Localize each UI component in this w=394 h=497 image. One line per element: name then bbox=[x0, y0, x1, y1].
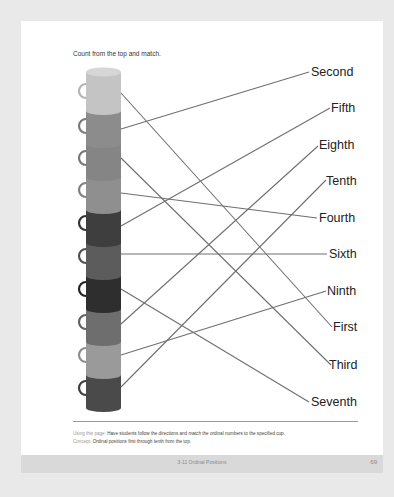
cup-stack bbox=[86, 68, 121, 413]
label-seventh[interactable]: Seventh bbox=[311, 395, 357, 409]
label-first[interactable]: First bbox=[333, 320, 357, 334]
cup-handle-icon bbox=[79, 119, 86, 133]
cup-handle-icon bbox=[79, 84, 86, 98]
label-tenth[interactable]: Tenth bbox=[326, 174, 357, 188]
page-number: 69 bbox=[370, 459, 377, 465]
label-fourth[interactable]: Fourth bbox=[319, 211, 355, 225]
cup-handle-icon bbox=[79, 249, 86, 263]
divider bbox=[73, 421, 358, 422]
concept-note: Concept: Ordinal positions first through… bbox=[73, 439, 191, 444]
match-line-second bbox=[121, 72, 309, 129]
cup-handle-icon bbox=[79, 183, 86, 197]
usage-note-text: Have students follow the directions and … bbox=[106, 431, 285, 436]
match-line-third bbox=[121, 158, 331, 365]
match-lines bbox=[121, 72, 332, 402]
cup-handle-icon bbox=[79, 216, 86, 230]
label-third[interactable]: Third bbox=[329, 358, 357, 372]
cup-handle-icon bbox=[79, 282, 86, 296]
footer-title: 3-11 Ordinal Positions bbox=[21, 459, 383, 465]
concept-note-key: Concept: bbox=[73, 439, 91, 444]
match-line-eighth bbox=[121, 146, 318, 324]
label-sixth[interactable]: Sixth bbox=[329, 247, 357, 261]
usage-note: Using this page: Have students follow th… bbox=[73, 431, 285, 436]
label-ninth[interactable]: Ninth bbox=[327, 284, 356, 298]
match-line-fourth bbox=[121, 193, 317, 218]
label-second[interactable]: Second bbox=[311, 65, 353, 79]
match-line-seventh bbox=[121, 289, 309, 402]
match-line-first bbox=[121, 93, 332, 327]
label-eighth[interactable]: Eighth bbox=[319, 138, 354, 152]
usage-note-key: Using this page: bbox=[73, 431, 106, 436]
label-fifth[interactable]: Fifth bbox=[331, 101, 355, 115]
cup-handle-icon bbox=[79, 348, 86, 362]
match-line-tenth bbox=[121, 180, 326, 387]
concept-note-text: Ordinal positions first through tenth fr… bbox=[91, 439, 191, 444]
cup-handles bbox=[79, 84, 86, 395]
match-line-ninth bbox=[121, 291, 326, 355]
cup-handle-icon bbox=[79, 381, 86, 395]
cup-handle-icon bbox=[79, 151, 86, 165]
footer: 3-11 Ordinal Positions 69 bbox=[21, 455, 383, 473]
cup-handle-icon bbox=[79, 315, 86, 329]
